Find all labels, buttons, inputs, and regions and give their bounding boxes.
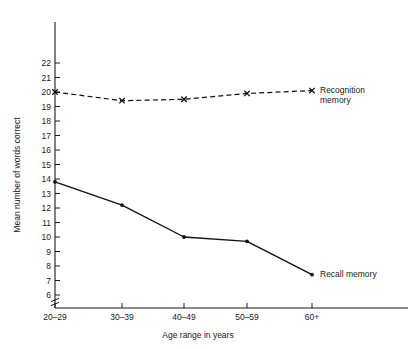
data-point-marker [120,203,124,207]
x-tick-label: 50–59 [235,312,259,322]
x-tick-label: 20–29 [43,312,67,322]
y-tick-label: 6 [46,290,51,300]
data-point-marker [53,180,57,184]
y-tick-label: 16 [42,145,52,155]
series-markers [52,88,314,277]
data-point-marker [310,273,314,277]
y-tick-label: 19 [42,102,52,112]
y-tick-label: 7 [46,276,51,286]
y-tick-label: 18 [42,116,52,126]
y-tick-label: 11 [42,218,51,228]
x-tick-label: 40–49 [172,312,196,322]
x-tick-label: 60+ [305,312,319,322]
data-point-marker [182,235,186,239]
y-tick-label: 9 [46,247,51,257]
series-lines [55,91,312,275]
y-tick-label: 13 [42,189,52,199]
y-tick-label: 22 [42,58,52,68]
series-labels: RecognitionmemoryRecall memory [320,85,377,279]
axes [51,22,408,308]
y-tick-label: 20 [42,87,52,97]
series-label-1: Recognitionmemory [320,85,365,105]
series-line-2 [55,182,312,275]
chart-container: 678910111213141516171819202122 20–2930–3… [0,0,415,349]
y-tick-label: 10 [42,232,52,242]
y-tick-label: 15 [42,160,52,170]
y-tick-label: 17 [42,131,52,141]
x-tick-label: 30–39 [110,312,134,322]
data-point-marker [245,239,249,243]
y-tick-label: 14 [42,174,52,184]
x-axis-title: Age range in years [162,330,233,340]
x-axis-ticks: 20–2930–3940–4950–5960+ [43,303,319,322]
series-label-2: Recall memory [320,269,377,279]
y-axis-title: Mean number of words correct [12,117,22,233]
y-tick-label: 8 [46,261,51,271]
y-tick-label: 21 [42,73,52,83]
y-tick-label: 12 [42,203,52,213]
line-chart: 678910111213141516171819202122 20–2930–3… [0,0,415,349]
